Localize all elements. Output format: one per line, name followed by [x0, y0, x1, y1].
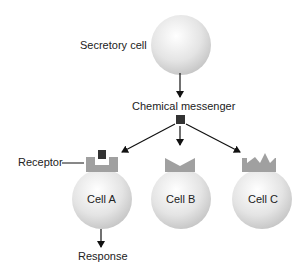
secretory-cell [151, 15, 211, 75]
bound-messenger-icon [98, 150, 106, 159]
label-response: Response [78, 250, 128, 262]
label-chemical-messenger: Chemical messenger [132, 100, 235, 112]
diagram-canvas [0, 0, 302, 274]
arrow-to-cell-c [186, 124, 240, 152]
label-receptor: Receptor [18, 156, 63, 168]
label-cell-a: Cell A [87, 193, 116, 205]
label-cell-b: Cell B [166, 193, 195, 205]
label-cell-c: Cell C [248, 193, 278, 205]
arrow-to-cell-a [122, 124, 175, 152]
chemical-messenger-icon [176, 115, 185, 124]
receptor-b [165, 158, 195, 172]
label-secretory-cell: Secretory cell [80, 39, 147, 51]
receptor-a [86, 157, 118, 172]
receptor-c [242, 153, 276, 172]
